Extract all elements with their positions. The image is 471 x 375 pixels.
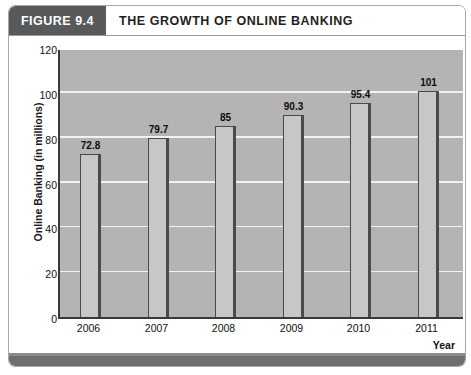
bar [148, 138, 169, 317]
plot-area: 72.879.78590.395.4101 [58, 50, 463, 319]
gridline [60, 181, 463, 183]
x-axis-tick-label: 2006 [62, 322, 116, 334]
chart-body: Online Banking (in millions) 02040608010… [9, 36, 465, 356]
y-axis-tick-label: 100 [29, 89, 57, 101]
bar [80, 154, 101, 317]
bar [215, 126, 236, 317]
figure-header: FIGURE 9.4 THE GROWTH OF ONLINE BANKING [9, 6, 465, 35]
bar-value-label: 85 [204, 112, 248, 123]
y-axis-tick-label: 40 [29, 223, 57, 235]
gridline [60, 226, 463, 228]
bar-value-label: 101 [407, 77, 451, 88]
bar-value-label: 72.8 [69, 140, 113, 151]
y-axis-tick-label: 60 [29, 179, 57, 191]
bar [283, 115, 304, 317]
y-axis-tick-label: 80 [29, 134, 57, 146]
gridline [60, 91, 463, 93]
y-axis-tick-label: 0 [29, 313, 57, 325]
bar-value-label: 90.3 [272, 101, 316, 112]
bar [350, 103, 371, 317]
x-axis-tick-label: 2011 [400, 322, 454, 334]
footer-highlight [9, 353, 465, 356]
x-axis-tick-label: 2009 [265, 322, 319, 334]
bar [418, 91, 439, 317]
figure-footer-band [9, 353, 465, 366]
gridline [60, 136, 463, 138]
x-axis-tick-label: 2008 [197, 322, 251, 334]
y-axis-tick-labels: 020406080100120 [29, 36, 57, 320]
figure-number-label: FIGURE 9.4 [21, 14, 94, 28]
figure-number-badge: FIGURE 9.4 [9, 6, 106, 35]
bar-value-label: 95.4 [339, 89, 383, 100]
figure-card: FIGURE 9.4 THE GROWTH OF ONLINE BANKING … [8, 5, 466, 367]
x-axis-tick-label: 2010 [332, 322, 386, 334]
bar-value-label: 79.7 [137, 124, 181, 135]
gridline [60, 271, 463, 273]
y-axis-tick-label: 120 [29, 44, 57, 56]
x-axis-tick-label: 2007 [130, 322, 184, 334]
figure-root: FIGURE 9.4 THE GROWTH OF ONLINE BANKING … [0, 0, 471, 375]
y-axis-tick-label: 20 [29, 268, 57, 280]
x-axis-title: Year [433, 339, 455, 351]
x-axis-tick-labels: 200620072008200920102011 [58, 322, 463, 340]
figure-title: THE GROWTH OF ONLINE BANKING [119, 6, 353, 35]
